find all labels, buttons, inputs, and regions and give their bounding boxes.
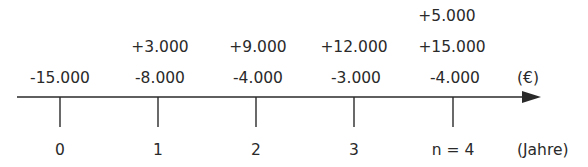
period-label-2: 2 bbox=[251, 141, 261, 159]
currency-unit-label: (€) bbox=[517, 69, 539, 87]
cashflow-p1-outflow: -8.000 bbox=[135, 69, 185, 87]
cashflow-p3-inflow: +12.000 bbox=[320, 38, 387, 56]
period-label-n4: n = 4 bbox=[432, 141, 475, 159]
cashflow-p4-inflow-2: +5.000 bbox=[418, 7, 475, 25]
period-label-1: 1 bbox=[153, 141, 163, 159]
cashflow-p2-outflow: -4.000 bbox=[233, 69, 283, 87]
cashflow-p1-inflow: +3.000 bbox=[131, 38, 188, 56]
cashflow-p4-inflow-1: +15.000 bbox=[418, 38, 485, 56]
cashflow-p4-outflow: -4.000 bbox=[430, 69, 480, 87]
period-label-3: 3 bbox=[349, 141, 359, 159]
time-unit-label: (Jahre) bbox=[517, 141, 569, 159]
cashflow-p0-outflow: -15.000 bbox=[30, 69, 90, 87]
arrow-head-icon bbox=[522, 91, 541, 103]
cashflow-p3-outflow: -3.000 bbox=[331, 69, 381, 87]
period-label-0: 0 bbox=[55, 141, 65, 159]
cashflow-p2-inflow: +9.000 bbox=[229, 38, 286, 56]
